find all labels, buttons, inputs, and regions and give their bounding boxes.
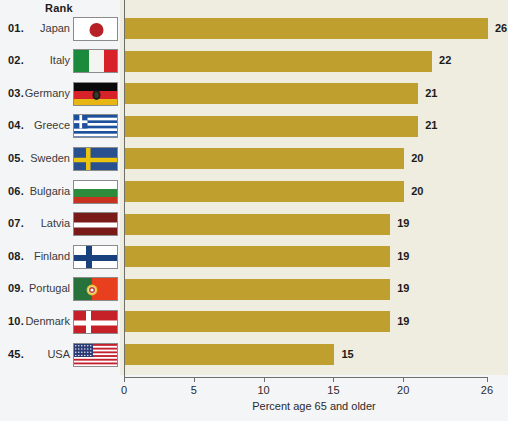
row-country-label: Portugal	[29, 282, 70, 294]
row-country-label: USA	[47, 348, 70, 360]
bar-value-label: 19	[397, 217, 409, 229]
rank-column-header: Rank	[45, 2, 73, 14]
x-tick-label: 10	[257, 384, 269, 396]
row-country-label: Germany	[25, 87, 70, 99]
bar-value-label: 19	[397, 250, 409, 262]
rank-panel: Rank 01.Japan02.Italy03.Germany04.Greece…	[0, 0, 120, 421]
row-country-label: Denmark	[25, 315, 70, 327]
row-rank: 05.	[8, 152, 24, 164]
x-tick-mark	[487, 377, 488, 382]
row-country-label: Bulgaria	[30, 185, 70, 197]
x-tick-mark	[124, 377, 125, 382]
row-rank: 04.	[8, 119, 24, 131]
flag-bulgaria-icon	[73, 180, 118, 204]
flag-latvia-icon	[73, 212, 118, 236]
x-tick-mark	[403, 377, 404, 382]
x-tick-label: 0	[121, 384, 127, 396]
flag-sweden-icon	[73, 147, 118, 171]
bar	[125, 311, 390, 332]
row-rank: 03.	[8, 87, 24, 99]
x-tick-mark	[264, 377, 265, 382]
flag-denmark-icon	[73, 310, 118, 334]
x-axis-line	[124, 377, 488, 378]
flag-japan-icon	[73, 17, 118, 41]
row-country-label: Finland	[34, 250, 70, 262]
bar-value-label: 20	[411, 185, 423, 197]
row-rank: 45.	[8, 348, 24, 360]
bar-value-label: 21	[425, 87, 437, 99]
flag-portugal-icon	[73, 277, 118, 301]
bar-value-label: 19	[397, 315, 409, 327]
row-country-label: Italy	[50, 54, 70, 66]
x-tick-label: 15	[327, 384, 339, 396]
row-rank: 07.	[8, 217, 24, 229]
x-tick-label: 26	[481, 384, 493, 396]
bar-value-label: 26	[495, 22, 507, 34]
bar-value-label: 15	[341, 348, 353, 360]
bar	[125, 214, 390, 235]
bar-value-label: 22	[439, 54, 451, 66]
bar-value-label: 19	[397, 282, 409, 294]
x-tick-label: 5	[191, 384, 197, 396]
bar	[125, 344, 334, 365]
chart-root: Rank 01.Japan02.Italy03.Germany04.Greece…	[0, 0, 508, 421]
bar	[125, 18, 488, 39]
flag-finland-icon	[73, 245, 118, 269]
row-rank: 08.	[8, 250, 24, 262]
row-country-label: Sweden	[30, 152, 70, 164]
row-rank: 01.	[8, 22, 24, 34]
x-tick-mark	[333, 377, 334, 382]
bar	[125, 148, 404, 169]
row-country-label: Japan	[40, 22, 70, 34]
x-tick-mark	[194, 377, 195, 382]
row-rank: 06.	[8, 185, 24, 197]
bar	[125, 83, 418, 104]
x-axis-label: Percent age 65 and older	[0, 400, 508, 412]
row-country-label: Latvia	[41, 217, 70, 229]
bar	[125, 116, 418, 137]
x-tick-label: 20	[397, 384, 409, 396]
row-rank: 10.	[8, 315, 24, 327]
flag-germany-icon	[73, 82, 118, 106]
flag-usa-icon	[73, 343, 118, 367]
bar-value-label: 20	[411, 152, 423, 164]
row-rank: 09.	[8, 282, 24, 294]
bar-value-label: 21	[425, 119, 437, 131]
bar	[125, 181, 404, 202]
row-rank: 02.	[8, 54, 24, 66]
bar	[125, 51, 432, 72]
row-country-label: Greece	[34, 119, 70, 131]
flag-italy-icon	[73, 49, 118, 73]
bar	[125, 279, 390, 300]
bar	[125, 246, 390, 267]
flag-greece-icon	[73, 114, 118, 138]
